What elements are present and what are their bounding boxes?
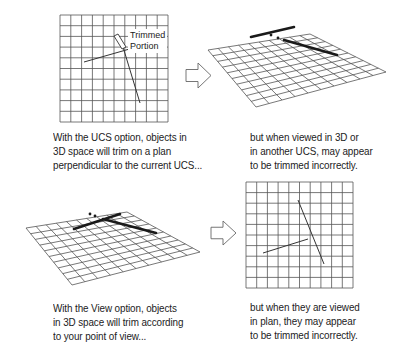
caption-line: perpendicular to the current UCS... — [53, 158, 202, 172]
grid-line — [251, 68, 378, 101]
caption-line: but when viewed in 3D or — [250, 130, 373, 144]
grid-line — [279, 39, 347, 83]
panel-view-3d — [26, 212, 200, 285]
caption-line: 3D space will trim on a plan — [53, 144, 202, 158]
caption-line: With the UCS option, objects in — [53, 130, 202, 144]
endpoint-dot — [277, 37, 280, 40]
arrow-shape — [211, 221, 236, 245]
object-line — [123, 47, 140, 103]
caption-line: in 3D space will trim according — [53, 315, 183, 329]
caption-line: to your point of view... — [53, 329, 183, 343]
caption-view-3d: With the View option, objects in 3D spac… — [53, 301, 183, 343]
diagram-canvas — [0, 0, 403, 349]
caption-line: to be trimmed incorrectly. — [250, 328, 360, 342]
trimmed-portion-label: Trimmed Portion — [128, 29, 167, 53]
object-line-3d — [251, 27, 294, 37]
panel-view-plan — [246, 182, 353, 288]
caption-view-plan: but when they are viewed in plan, they m… — [250, 300, 360, 342]
caption-line: in another UCS, may appear — [250, 144, 373, 158]
grid — [246, 182, 353, 288]
right-arrow-icon — [211, 221, 236, 245]
right-arrow-icon — [186, 63, 211, 88]
grid-line — [97, 217, 162, 262]
caption-ucs-3d: but when viewed in 3D or in another UCS,… — [250, 130, 373, 172]
caption-ucs-plan: With the UCS option, objects in 3D space… — [53, 130, 202, 172]
endpoint-dot — [89, 213, 92, 216]
label-line: Portion — [130, 41, 165, 52]
endpoint-dot — [270, 34, 273, 37]
caption-line: With the View option, objects — [53, 301, 183, 315]
endpoint-dot — [94, 215, 97, 218]
panel-ucs-3d — [208, 27, 386, 107]
caption-line: to be trimmed incorrectly. — [250, 158, 373, 172]
object-line — [298, 200, 324, 264]
grid-line — [67, 248, 192, 279]
caption-line: but when they are viewed — [250, 300, 360, 314]
label-line: Trimmed — [130, 30, 165, 41]
arrow-shape — [186, 63, 211, 88]
grid-line — [63, 244, 186, 274]
grid-line — [49, 232, 164, 257]
caption-line: in plan, they may appear — [250, 314, 360, 328]
